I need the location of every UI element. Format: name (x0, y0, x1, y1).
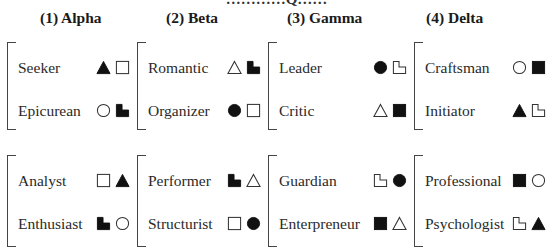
type-row: Professional (425, 171, 550, 191)
step-filled-icon (96, 216, 111, 231)
symbol-pair (373, 216, 407, 231)
type-row: Enterpreneur (279, 214, 411, 234)
square-filled-icon (392, 103, 407, 118)
square-outline-icon (115, 60, 130, 75)
square-filled-icon (373, 216, 388, 231)
bracket (414, 155, 423, 247)
circle-filled-icon (246, 216, 261, 231)
symbol-pair (373, 103, 407, 118)
step-filled-icon (246, 60, 261, 75)
triangle-filled-icon (96, 60, 111, 75)
triangle-outline-icon (392, 216, 407, 231)
circle-filled-icon (373, 60, 388, 75)
type-row: Critic (279, 101, 411, 121)
symbol-pair (96, 173, 130, 188)
triangle-outline-icon (373, 103, 388, 118)
type-label: Epicurean (18, 102, 81, 120)
triangle-filled-icon (531, 216, 546, 231)
square-outline-icon (246, 103, 261, 118)
type-row: Psychologist (425, 214, 550, 234)
type-row: Performer (148, 171, 265, 191)
symbol-pair (96, 216, 130, 231)
triangle-filled-icon (115, 173, 130, 188)
type-row: Structurist (148, 214, 265, 234)
group-beta-2: PerformerStructurist (137, 155, 265, 247)
square-outline-icon (227, 216, 242, 231)
group-delta-1: CraftsmanInitiator (414, 42, 550, 130)
triangle-outline-icon (246, 173, 261, 188)
symbol-pair (96, 60, 130, 75)
type-row: Leader (279, 58, 411, 78)
type-label: Enthusiast (18, 215, 83, 233)
step-outline-icon (392, 60, 407, 75)
type-label: Initiator (425, 102, 475, 120)
type-label: Guardian (279, 172, 337, 190)
type-label: Performer (148, 172, 211, 190)
type-label: Professional (425, 172, 502, 190)
type-row: Guardian (279, 171, 411, 191)
circle-outline-icon (512, 60, 527, 75)
triangle-outline-icon (227, 60, 242, 75)
symbol-pair (227, 60, 261, 75)
type-label: Analyst (18, 172, 66, 190)
type-label: Psychologist (425, 215, 504, 233)
symbol-pair (96, 103, 130, 118)
symbol-pair (512, 103, 546, 118)
bracket (137, 155, 146, 247)
type-label: Structurist (148, 215, 213, 233)
square-filled-icon (512, 173, 527, 188)
symbol-pair (373, 173, 407, 188)
step-outline-icon (531, 103, 546, 118)
type-row: Romantic (148, 58, 265, 78)
symbol-pair (512, 60, 546, 75)
symbol-pair (373, 60, 407, 75)
square-outline-icon (96, 173, 111, 188)
type-row: Analyst (18, 171, 134, 191)
type-row: Epicurean (18, 101, 134, 121)
group-gamma-2: GuardianEnterpreneur (268, 155, 411, 247)
type-label: Craftsman (425, 59, 490, 77)
bracket (7, 155, 16, 247)
column-header-gamma: (3) Gamma (287, 9, 362, 27)
type-label: Organizer (148, 102, 210, 120)
step-outline-icon (512, 216, 527, 231)
type-row: Organizer (148, 101, 265, 121)
triangle-filled-icon (512, 103, 527, 118)
bracket (268, 155, 277, 247)
type-label: Critic (279, 102, 314, 120)
symbol-pair (227, 103, 261, 118)
group-gamma-1: LeaderCritic (268, 42, 411, 130)
step-filled-icon (115, 103, 130, 118)
bracket (268, 42, 277, 130)
cropped-title: …………Q…… (0, 0, 553, 8)
type-label: Enterpreneur (279, 215, 360, 233)
circle-outline-icon (531, 173, 546, 188)
bracket (414, 42, 423, 130)
group-delta-2: ProfessionalPsychologist (414, 155, 550, 247)
group-alpha-1: SeekerEpicurean (7, 42, 134, 130)
bracket (137, 42, 146, 130)
type-label: Romantic (148, 59, 208, 77)
circle-outline-icon (115, 216, 130, 231)
type-row: Enthusiast (18, 214, 134, 234)
symbol-pair (227, 173, 261, 188)
type-label: Seeker (18, 59, 60, 77)
bracket (7, 42, 16, 130)
type-row: Craftsman (425, 58, 550, 78)
column-header-delta: (4) Delta (426, 9, 483, 27)
type-label: Leader (279, 59, 322, 77)
step-outline-icon (373, 173, 388, 188)
column-header-beta: (2) Beta (166, 9, 218, 27)
square-filled-icon (531, 60, 546, 75)
symbol-pair (227, 216, 261, 231)
type-row: Initiator (425, 101, 550, 121)
group-beta-1: RomanticOrganizer (137, 42, 265, 130)
column-header-alpha: (1) Alpha (40, 9, 102, 27)
type-row: Seeker (18, 58, 134, 78)
circle-filled-icon (392, 173, 407, 188)
symbol-pair (512, 173, 546, 188)
group-alpha-2: AnalystEnthusiast (7, 155, 134, 247)
step-filled-icon (227, 173, 242, 188)
circle-outline-icon (96, 103, 111, 118)
circle-filled-icon (227, 103, 242, 118)
